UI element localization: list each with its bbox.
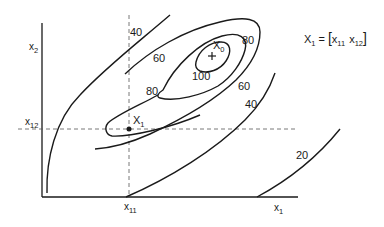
point-x1-marker xyxy=(127,127,132,132)
contour-label-80-left: 80 xyxy=(146,85,158,97)
y-axis-label: x2 xyxy=(29,41,38,55)
formula: X1=[x11x12] xyxy=(304,30,367,48)
contour-40-upper xyxy=(47,15,170,193)
point-x0-marker xyxy=(208,52,216,60)
contour-label-20: 20 xyxy=(296,149,308,161)
contour-label-60-right: 60 xyxy=(238,80,250,92)
contour-label-100: 100 xyxy=(192,70,210,82)
contour-label-40-left: 40 xyxy=(130,26,142,38)
contour-20 xyxy=(257,129,340,197)
contour-label-60-left: 60 xyxy=(153,52,165,64)
x12-tick-label: x12 xyxy=(25,116,38,130)
x11-tick-label: x11 xyxy=(124,201,137,215)
contour-80 xyxy=(158,34,246,99)
x-axis-label: x1 xyxy=(274,202,283,216)
point-x1-label: X1 xyxy=(133,114,145,129)
contour-label-40-right: 40 xyxy=(245,98,257,110)
point-x0-label: X0 xyxy=(213,39,225,54)
contour-label-80-top: 80 xyxy=(242,34,254,46)
contour-diagram: X1 X0 40 60 80 80 100 60 40 20 x2 x1 x12… xyxy=(0,0,384,227)
